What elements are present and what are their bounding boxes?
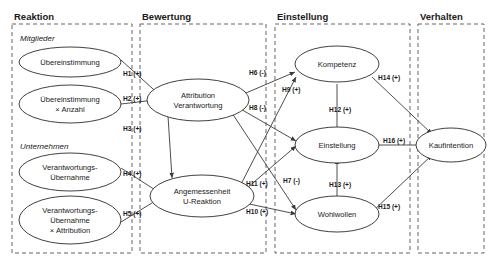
hypothesis-label-h9: H9 (+) [282, 86, 301, 94]
hypothesis-label-h8: H8 (-) [249, 104, 266, 112]
hypothesis-label-h13: H13 (+) [329, 181, 351, 189]
hypothesis-label-h1: H1 (+) [123, 70, 142, 78]
node-label-line1: Einstellung [318, 141, 355, 150]
hypothesis-label-h14: H14 (+) [378, 74, 400, 82]
node-wohlwollen[interactable]: Wohlwollen [295, 196, 379, 232]
column-header-verhalten: Verhalten [420, 11, 463, 22]
node-einstellung[interactable]: Einstellung [295, 127, 379, 163]
node-label-line2: Übernahme [50, 216, 90, 225]
node-ellipse [147, 79, 249, 121]
node-verantwortung-attribution[interactable]: Verantwortungs- Übernahme × Attribution [19, 196, 121, 244]
column-header-bewertung: Bewertung [142, 11, 191, 22]
hypothesis-label-h6: H6 (-) [249, 69, 266, 77]
structural-model-diagram: Reaktion Bewertung Einstellung Verhalten… [0, 0, 493, 265]
node-label-line1: Verantwortungs- [42, 206, 98, 215]
node-label-line1: Attribution [181, 91, 215, 100]
node-uebereinstimmung[interactable]: Übereinstimmung [19, 47, 121, 77]
node-label-line1: Kompetenz [318, 60, 357, 69]
node-ellipse [19, 85, 121, 123]
hypothesis-label-h2: H2 (+) [123, 95, 142, 103]
group-label-unternehmen: Unternehmen [20, 142, 69, 151]
column-header-reaktion: Reaktion [14, 11, 54, 22]
hypothesis-label-h4: H4 (+) [123, 170, 142, 178]
node-attribution-verantwortung[interactable]: Attribution Verantwortung [147, 79, 249, 121]
node-label-line2: U-Reaktion [183, 197, 221, 206]
edge-h14 [372, 77, 432, 134]
node-uebereinstimmung-anzahl[interactable]: Übereinstimmung × Anzahl [19, 85, 121, 123]
node-label-line1: Kaufintention [429, 141, 473, 150]
hypothesis-label-h5: H5 (+) [123, 210, 142, 218]
node-ellipse [150, 175, 254, 217]
group-label-mitglieder: Mitglieder [20, 34, 55, 43]
diagram-canvas: Reaktion Bewertung Einstellung Verhalten… [0, 0, 493, 265]
node-label-line3: × Attribution [50, 226, 90, 235]
node-angemessenheit[interactable]: Angemessenheit U-Reaktion [150, 175, 254, 217]
node-label-line1: Übereinstimmung [40, 95, 100, 104]
node-kaufintention[interactable]: Kaufintention [416, 128, 486, 162]
edge-h3 [168, 116, 172, 178]
hypothesis-label-h12: H12 (+) [329, 106, 351, 114]
column-header-einstellung: Einstellung [277, 11, 328, 22]
node-label-line1: Wohlwollen [318, 210, 357, 219]
node-label-line2: Verantwortung [174, 101, 223, 110]
hypothesis-label-h10: H10 (+) [246, 208, 268, 216]
node-verantwortung[interactable]: Verantwortungs- Übernahme [19, 153, 121, 191]
node-kompetenz[interactable]: Kompetenz [295, 46, 379, 82]
node-label-line2: × Anzahl [55, 105, 85, 114]
node-label-line1: Übereinstimmung [40, 58, 100, 67]
node-label-line1: Verantwortungs- [42, 163, 98, 172]
lane-box-bewertung [140, 24, 266, 253]
hypothesis-label-h15: H15 (+) [378, 203, 400, 211]
hypothesis-label-h16: H16 (+) [383, 137, 405, 145]
node-label-line1: Angemessenheit [174, 187, 231, 196]
hypothesis-label-h3: H3 (+) [123, 125, 142, 133]
node-ellipse [19, 153, 121, 191]
hypothesis-label-h11: H11 (+) [246, 180, 268, 188]
hypothesis-label-h7: H7 (-) [283, 177, 300, 185]
node-label-line2: Übernahme [50, 173, 90, 182]
